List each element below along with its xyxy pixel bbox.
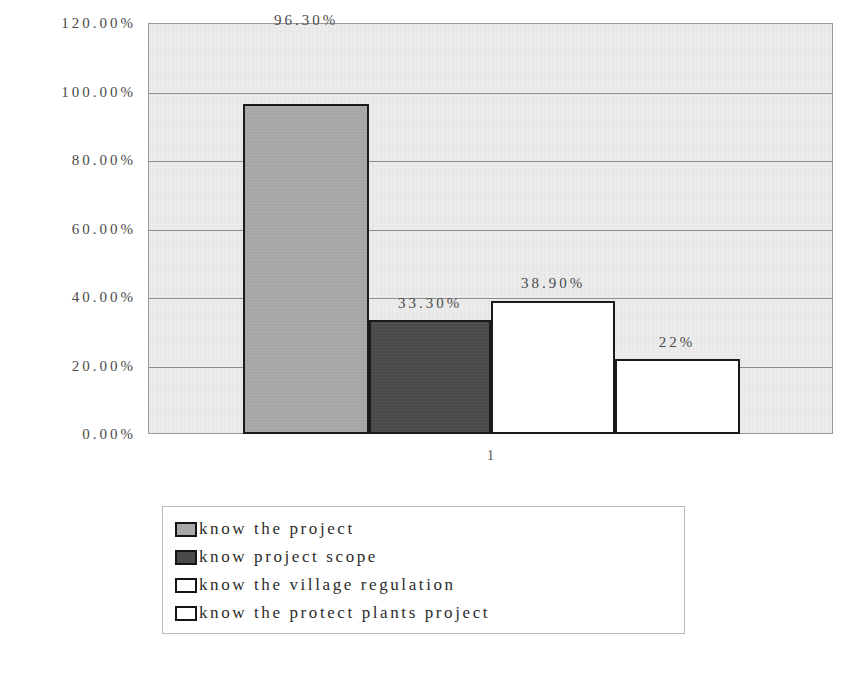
legend-swatch-icon — [175, 550, 197, 565]
y-axis-tick-label: 120.00% — [8, 15, 136, 32]
y-axis-tick-label: 0.00% — [8, 426, 136, 443]
legend-item-label: know the project — [199, 519, 355, 539]
bar-chart-figure: 120.00% 100.00% 80.00% 60.00% 40.00% 20.… — [0, 0, 856, 680]
legend: know the project know project scope know… — [162, 506, 685, 634]
bar-value-label-1: 96.30% — [274, 12, 338, 29]
bar-series-3[interactable] — [491, 301, 615, 434]
legend-item[interactable]: know project scope — [175, 543, 684, 571]
bar-series-1[interactable] — [243, 104, 369, 434]
bar-series-2[interactable] — [369, 320, 491, 434]
y-axis-tick-label: 60.00% — [8, 220, 136, 237]
y-axis: 120.00% 100.00% 80.00% 60.00% 40.00% 20.… — [0, 0, 136, 680]
legend-swatch-icon — [175, 522, 197, 537]
bar-series-4[interactable] — [615, 359, 740, 434]
legend-item-label: know project scope — [199, 547, 378, 567]
legend-swatch-icon — [175, 578, 197, 593]
bar-texture — [371, 322, 489, 432]
legend-item-label: know the protect plants project — [199, 603, 490, 623]
y-axis-tick-label: 80.00% — [8, 152, 136, 169]
y-axis-tick-label: 20.00% — [8, 357, 136, 374]
legend-item-label: know the village regulation — [199, 575, 456, 595]
y-axis-tick-label: 100.00% — [8, 83, 136, 100]
legend-item[interactable]: know the protect plants project — [175, 599, 684, 627]
bars-layer: 96.30% 33.30% 38.90% 22% — [148, 23, 833, 434]
bar-value-label-4: 22% — [659, 334, 696, 351]
bar-value-label-2: 33.30% — [398, 295, 462, 312]
legend-item[interactable]: know the project — [175, 515, 684, 543]
y-axis-tick-label: 40.00% — [8, 289, 136, 306]
legend-item[interactable]: know the village regulation — [175, 571, 684, 599]
bar-value-label-3: 38.90% — [521, 275, 585, 292]
legend-swatch-icon — [175, 606, 197, 621]
x-axis-tick-label: 1 — [148, 448, 833, 464]
bar-texture — [245, 106, 367, 432]
